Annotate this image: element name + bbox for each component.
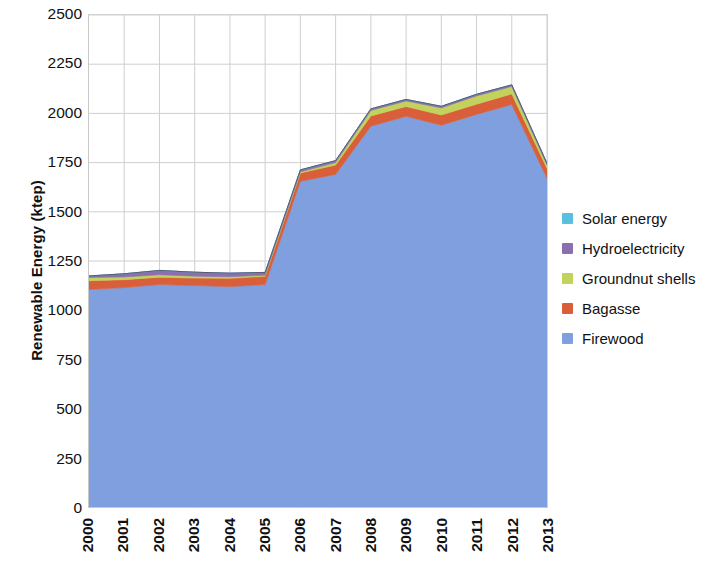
y-tick-label: 250: [18, 451, 82, 467]
x-tick-label: 2001: [114, 505, 132, 565]
x-tick-label: 2007: [327, 505, 345, 565]
y-axis-tick-labels: 25002250200017501500125010007505002500: [18, 0, 82, 568]
legend-item[interactable]: Groundnut shells: [562, 264, 726, 292]
legend-swatch-icon: [562, 243, 573, 254]
x-tick-label: 2002: [150, 505, 168, 565]
x-tick-label: 2006: [291, 505, 309, 565]
x-tick-label: 2011: [468, 505, 486, 565]
legend-swatch-icon: [562, 303, 573, 314]
y-tick-label: 1500: [18, 204, 82, 220]
legend-item[interactable]: Hydroelectricity: [562, 234, 726, 262]
y-tick-label: 2250: [18, 55, 82, 71]
x-tick-label: 2004: [221, 505, 239, 565]
legend-label: Hydroelectricity: [582, 241, 685, 256]
legend-swatch-icon: [562, 273, 573, 284]
y-tick-label: 1250: [18, 253, 82, 269]
y-tick-label: 2000: [18, 105, 82, 121]
y-tick-label: 0: [18, 500, 82, 516]
plot-svg: [89, 15, 547, 507]
legend-item[interactable]: Bagasse: [562, 294, 726, 322]
legend-swatch-icon: [562, 213, 573, 224]
y-tick-label: 2500: [18, 6, 82, 22]
legend-label: Bagasse: [582, 301, 640, 316]
legend-item[interactable]: Solar energy: [562, 204, 726, 232]
legend-swatch-icon: [562, 333, 573, 344]
legend-label: Groundnut shells: [582, 271, 695, 286]
x-tick-label: 2003: [185, 505, 203, 565]
y-tick-label: 1000: [18, 302, 82, 318]
legend-label: Solar energy: [582, 211, 667, 226]
x-tick-label: 2000: [79, 505, 97, 565]
plot-area: [88, 14, 548, 508]
x-tick-label: 2012: [504, 505, 522, 565]
y-tick-label: 750: [18, 352, 82, 368]
legend-label: Firewood: [582, 331, 644, 346]
x-tick-label: 2009: [397, 505, 415, 565]
area-series-group: [89, 85, 547, 507]
y-tick-label: 1750: [18, 154, 82, 170]
y-tick-label: 500: [18, 401, 82, 417]
x-tick-label: 2010: [433, 505, 451, 565]
x-tick-label: 2013: [539, 505, 557, 565]
renewable-energy-stacked-area-chart: Renewable Energy (ktep) 2500225020001750…: [0, 0, 726, 568]
chart-legend: Solar energyHydroelectricityGroundnut sh…: [562, 204, 726, 354]
x-tick-label: 2005: [256, 505, 274, 565]
legend-item[interactable]: Firewood: [562, 324, 726, 352]
x-tick-label: 2008: [362, 505, 380, 565]
x-axis-tick-labels: 2000200120022003200420052006200720082009…: [88, 508, 548, 568]
